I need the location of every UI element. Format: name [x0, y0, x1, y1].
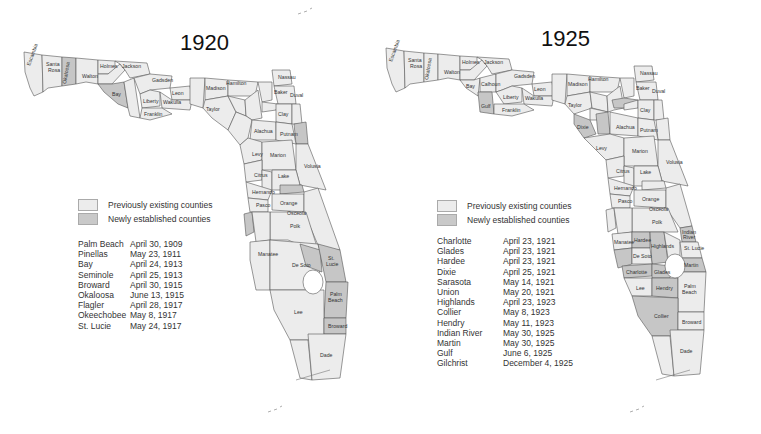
florida-keys-decoration [0, 0, 761, 434]
